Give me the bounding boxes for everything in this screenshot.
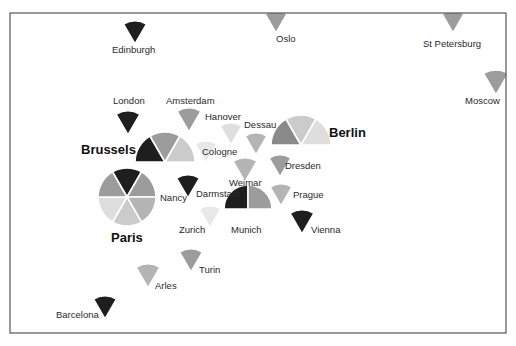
city-label-turin: Turin: [199, 264, 220, 275]
city-label-cologne: Cologne: [202, 146, 237, 157]
city-dessau-symbol: [245, 133, 267, 155]
city-label-darmstadt: Darmstadt: [196, 188, 240, 199]
wedge-dessau-0: [245, 133, 267, 155]
city-paris-symbol: [98, 168, 156, 226]
city-oslo-symbol: [265, 11, 287, 33]
city-london-symbol: [116, 111, 140, 135]
wedge-prague-0: [270, 184, 292, 206]
wedge-london-0: [116, 111, 140, 135]
city-edinburgh-symbol: [124, 21, 147, 44]
wedge-moscow-0: [484, 70, 509, 95]
wedge-edinburgh-0: [124, 21, 147, 44]
city-amsterdam-symbol: [177, 108, 201, 132]
city-label-moscow: Moscow: [465, 95, 500, 106]
city-label-london: London: [113, 95, 145, 106]
city-label-brussels: Brussels: [81, 142, 136, 157]
wedge-st-petersburg-0: [442, 11, 464, 33]
map-frame: [10, 13, 506, 333]
city-label-hanover: Hanover: [205, 111, 241, 122]
city-label-st-petersburg: St Petersburg: [423, 38, 481, 49]
city-label-paris: Paris: [111, 230, 143, 245]
wedge-munich-1: [248, 185, 272, 209]
city-label-vienna: Vienna: [311, 224, 341, 235]
city-label-arles: Arles: [155, 280, 177, 291]
city-berlin-symbol: [271, 115, 331, 145]
city-label-dessau: Dessau: [244, 119, 276, 130]
city-label-nancy: Nancy: [160, 192, 187, 203]
city-label-weimar: Weimar: [229, 177, 262, 188]
city-label-barcelona: Barcelona: [56, 309, 99, 320]
city-hanover-symbol: [220, 123, 242, 145]
city-label-oslo: Oslo: [276, 33, 296, 44]
city-label-edinburgh: Edinburgh: [112, 44, 155, 55]
city-label-zurich: Zurich: [179, 224, 205, 235]
pie-map-diagram: EdinburghOsloSt PetersburgMoscowLondonAm…: [0, 0, 516, 346]
wedge-amsterdam-0: [177, 108, 201, 132]
city-label-prague: Prague: [293, 189, 324, 200]
wedge-hanover-0: [220, 123, 242, 145]
city-label-amsterdam: Amsterdam: [166, 95, 215, 106]
city-brussels-symbol: [135, 132, 195, 162]
city-st-petersburg-symbol: [442, 11, 464, 33]
city-label-dresden: Dresden: [285, 160, 321, 171]
city-label-munich: Munich: [231, 224, 262, 235]
city-prague-symbol: [270, 184, 292, 206]
city-moscow-symbol: [484, 70, 509, 95]
wedge-oslo-0: [265, 11, 287, 33]
city-label-berlin: Berlin: [329, 125, 366, 140]
